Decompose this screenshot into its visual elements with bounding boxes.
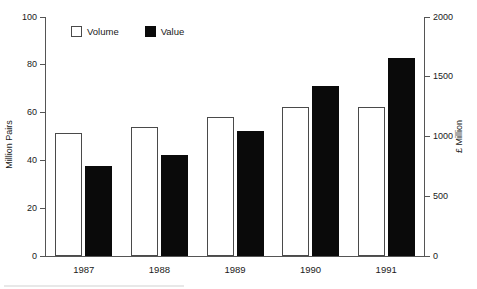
right-axis-tick-label: 2000 [433, 13, 453, 22]
left-axis-tick [40, 17, 45, 18]
right-axis-tick [425, 136, 430, 137]
bar-volume-1991 [358, 107, 385, 256]
x-axis-line [45, 256, 425, 257]
left-axis-tick [40, 64, 45, 65]
left-axis-tick [40, 208, 45, 209]
bar-volume-1990 [282, 107, 309, 256]
left-axis-tick [40, 256, 45, 257]
bar-value-1988 [161, 155, 188, 256]
plot-area [46, 17, 424, 256]
right-axis-tick-label: 500 [433, 192, 448, 201]
bar-volume-1987 [55, 133, 82, 256]
left-axis-tick [40, 160, 45, 161]
bar-value-1989 [237, 131, 264, 256]
right-axis-tick [425, 256, 430, 257]
legend-label-value: Value [161, 27, 185, 37]
left-axis-tick-label: 0 [11, 252, 37, 261]
right-axis-tick-label: 1000 [433, 132, 453, 141]
left-axis-tick-label: 60 [11, 108, 37, 117]
bar-value-1990 [312, 86, 339, 256]
legend-item-value: Value [145, 26, 185, 37]
left-axis-tick-label: 40 [11, 156, 37, 165]
left-axis-tick-label: 20 [11, 204, 37, 213]
bar-value-1991 [388, 58, 415, 256]
left-axis-tick-label: 100 [11, 13, 37, 22]
legend-item-volume: Volume [71, 26, 119, 37]
bar-volume-1989 [207, 117, 234, 256]
right-axis-tick-label: 1500 [433, 72, 453, 81]
right-axis-title: £ Million [455, 110, 464, 164]
bar-value-1987 [85, 166, 112, 256]
x-axis-label-1987: 1987 [46, 265, 122, 275]
x-axis-label-1990: 1990 [273, 265, 349, 275]
right-axis-tick [425, 196, 430, 197]
scan-artifact [4, 285, 184, 287]
filled-square-swatch-icon [145, 26, 156, 37]
bar-chart: 100806040200 2000150010005000 Million Pa… [0, 0, 477, 289]
right-axis-tick [425, 76, 430, 77]
open-square-swatch-icon [71, 26, 82, 37]
left-axis-title: Million Pairs [5, 115, 14, 175]
right-axis-line [424, 17, 425, 257]
chart-legend: Volume Value [71, 26, 184, 37]
x-axis-label-1989: 1989 [197, 265, 273, 275]
x-axis-label-1988: 1988 [122, 265, 198, 275]
legend-label-volume: Volume [87, 27, 119, 37]
x-axis-label-1991: 1991 [348, 265, 424, 275]
left-axis-tick-label: 80 [11, 60, 37, 69]
right-axis-tick [425, 17, 430, 18]
right-axis-tick-label: 0 [433, 252, 438, 261]
left-axis-tick [40, 112, 45, 113]
bar-volume-1988 [131, 127, 158, 256]
